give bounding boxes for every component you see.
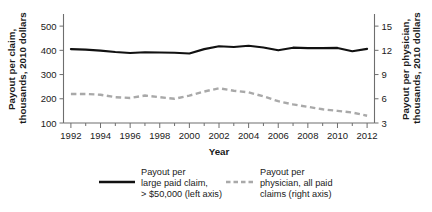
- x-tick-label-2004: 2004: [238, 130, 259, 141]
- y2-tick-label-12: 12: [382, 45, 393, 56]
- y-tick-label-300: 300: [41, 69, 57, 80]
- x-tick-label-2000: 2000: [179, 130, 200, 141]
- chart-legend: Payout per large paid claim, > $50,000 (…: [99, 167, 335, 199]
- y2-tick-label-6: 6: [382, 93, 387, 104]
- x-axis-title: Year: [209, 146, 230, 157]
- y-tick-label-500: 500: [41, 21, 57, 32]
- legend-label-solid: Payout per large paid claim, > $50,000 (…: [141, 167, 222, 199]
- x-axis-ticks: 1992199419961998200020022004200620082010…: [60, 123, 377, 141]
- x-tick-label-2010: 2010: [327, 130, 348, 141]
- x-tick-label-1994: 1994: [90, 130, 111, 141]
- left-axis-ticks: 100200300400500: [41, 21, 64, 129]
- right-axis-ticks: 3691215: [375, 21, 393, 129]
- x-tick-label-2012: 2012: [357, 130, 378, 141]
- y-axis-title-left: Payout per claim, thousands, 2010 dollar…: [6, 12, 28, 124]
- series-payout-per-large-paid-claim: [71, 46, 367, 54]
- y-tick-label-400: 400: [41, 45, 57, 56]
- x-tick-label-1992: 1992: [60, 130, 81, 141]
- y2-tick-label-3: 3: [382, 118, 387, 129]
- y-axis-title-right: Payout per physician, thousands, 2010 do…: [400, 12, 422, 124]
- y-tick-label-200: 200: [41, 93, 57, 104]
- x-tick-label-1996: 1996: [120, 130, 141, 141]
- y2-tick-label-9: 9: [382, 69, 387, 80]
- x-tick-label-2002: 2002: [208, 130, 229, 141]
- legend-label-dashed: Payout per physician, all paid claims (r…: [260, 167, 335, 199]
- x-tick-label-2006: 2006: [268, 130, 289, 141]
- chart-figure: 100200300400500 3691215 1992199419961998…: [0, 0, 432, 212]
- x-tick-label-1998: 1998: [149, 130, 170, 141]
- y-tick-label-100: 100: [41, 118, 57, 129]
- x-tick-label-2008: 2008: [297, 130, 318, 141]
- y2-tick-label-15: 15: [382, 21, 393, 32]
- line-chart: 100200300400500 3691215 1992199419961998…: [0, 0, 432, 212]
- data-series-group: [71, 46, 367, 116]
- series-payout-per-physician: [71, 88, 367, 115]
- plot-frame: [64, 14, 375, 123]
